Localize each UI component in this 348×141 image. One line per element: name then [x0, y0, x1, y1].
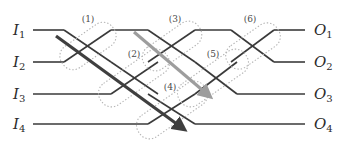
- input-subscript-i4: 4: [19, 123, 25, 134]
- output-subscript-o3: 3: [326, 93, 332, 104]
- input-subscript-i3: 3: [19, 93, 25, 104]
- switch-label-5: (5): [207, 49, 220, 59]
- input-label-i2: I2: [12, 53, 25, 72]
- output-subscript-o4: 4: [326, 123, 332, 134]
- output-subscript-o2: 2: [326, 61, 332, 72]
- output-label-layer: O1 O2 O3 O4: [314, 21, 333, 134]
- switch-label-6: (6): [244, 14, 257, 24]
- dark-highlighted-path: [56, 36, 181, 127]
- output-label-o1: O1: [314, 21, 333, 40]
- output-letter-o4: O: [314, 115, 326, 133]
- output-letter-o1: O: [314, 21, 326, 39]
- switch-label-1: (1): [82, 14, 95, 24]
- output-letter-o2: O: [314, 53, 326, 71]
- output-label-o3: O3: [314, 85, 333, 104]
- input-label-layer: I1 I2 I3 I4: [12, 21, 25, 134]
- switch-label-2: (2): [128, 49, 141, 59]
- wire-layer: [33, 30, 305, 124]
- network-svg: (1) (2) (3) (4) (5) (6) I1 I2 I3 I4: [0, 0, 348, 141]
- output-subscript-o1: 1: [326, 29, 332, 40]
- input-subscript-i1: 1: [19, 29, 25, 40]
- output-letter-o3: O: [314, 85, 326, 103]
- switch-box-layer: [55, 16, 285, 141]
- switch-label-4: (4): [164, 82, 177, 92]
- output-label-o4: O4: [314, 115, 333, 134]
- switching-network-figure: (1) (2) (3) (4) (5) (6) I1 I2 I3 I4: [0, 0, 348, 141]
- input-label-i3: I3: [12, 85, 25, 104]
- output-label-o2: O2: [314, 53, 333, 72]
- input-subscript-i2: 2: [19, 61, 25, 72]
- input-label-i4: I4: [12, 115, 25, 134]
- input-label-i1: I1: [12, 21, 25, 40]
- switch-label-layer: (1) (2) (3) (4) (5) (6): [82, 14, 257, 92]
- switch-label-3: (3): [169, 14, 182, 24]
